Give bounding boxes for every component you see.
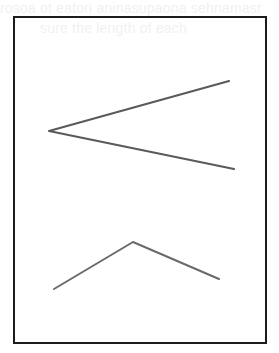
angle-2-obtuse: [54, 242, 219, 289]
angle-drawing-canvas: [0, 0, 279, 353]
angle-1-acute: [49, 81, 234, 169]
